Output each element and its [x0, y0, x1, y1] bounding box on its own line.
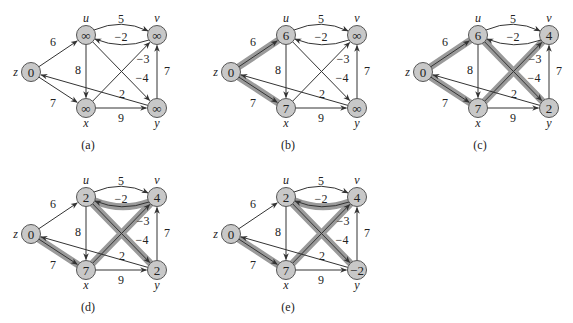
node-value-x: ∞: [81, 101, 90, 116]
panel-caption: (d): [81, 300, 95, 314]
edge-weight-ux: 8: [75, 225, 81, 239]
node-label-z: z: [12, 227, 18, 241]
edge-weight-yz: 2: [319, 87, 325, 101]
edge-weight-uv: 5: [118, 12, 124, 26]
edge-weight-ux: 8: [75, 63, 81, 77]
node-label-y: y: [545, 116, 552, 130]
edge-weight-xv: −3: [337, 52, 350, 66]
node-value-v: ∞: [152, 28, 161, 43]
edge-weight-yz: 2: [119, 249, 125, 263]
node-label-z: z: [212, 227, 218, 241]
node-label-v: v: [154, 11, 160, 25]
edge-z-u: [239, 203, 277, 229]
edge-weight-xy: 9: [318, 111, 324, 125]
edge-weight-yv: 7: [364, 64, 370, 78]
edge-weight-uv: 5: [118, 174, 124, 188]
edge-weight-zu: 6: [50, 35, 56, 49]
edge-weight-yv: 7: [164, 64, 170, 78]
edge-weight-vu: −2: [507, 30, 520, 44]
edge-weight-uy: −4: [528, 71, 541, 85]
node-value-v: 4: [546, 28, 553, 43]
edge-z-u: [39, 41, 77, 67]
bellman-ford-figure: 675−28−4−39720z∞u∞v∞x∞y(a)675−28−4−39720…: [0, 0, 573, 323]
edge-weight-zu: 6: [250, 35, 256, 49]
edge-weight-ux: 8: [275, 225, 281, 239]
edge-weight-xy: 9: [118, 273, 124, 287]
node-value-u: 6: [283, 28, 290, 43]
panel-caption: (c): [473, 138, 486, 152]
node-value-x: 7: [283, 101, 290, 116]
graph-panel-e: 675−28−4−39720z2u4v7x−2y(e): [212, 173, 370, 314]
edge-weight-yv: 7: [364, 226, 370, 240]
edge-z-u: [39, 203, 77, 229]
edge-weight-vu: −2: [115, 30, 128, 44]
node-value-y: 2: [154, 263, 161, 278]
edge-weight-zx: 7: [250, 258, 256, 272]
edge-weight-zu: 6: [250, 197, 256, 211]
edge-weight-xy: 9: [118, 111, 124, 125]
edge-weight-uy: −4: [336, 233, 349, 247]
edge-weight-uv: 5: [318, 174, 324, 188]
graph-panel-d: 675−28−4−39720z2u4v7x2y(d): [12, 173, 170, 314]
edge-weight-yz: 2: [319, 249, 325, 263]
node-value-z: 0: [228, 227, 235, 242]
node-label-v: v: [354, 173, 360, 187]
edge-weight-zx: 7: [250, 96, 256, 110]
edge-weight-zx: 7: [50, 96, 56, 110]
figure-canvas: 675−28−4−39720z∞u∞v∞x∞y(a)675−28−4−39720…: [0, 0, 573, 323]
node-label-u: u: [283, 11, 289, 25]
node-label-u: u: [83, 173, 89, 187]
edge-weight-vu: −2: [115, 192, 128, 206]
node-label-x: x: [82, 278, 89, 292]
edge-weight-ux: 8: [275, 63, 281, 77]
edge-weight-yv: 7: [164, 226, 170, 240]
edge-weight-vu: −2: [315, 30, 328, 44]
node-label-v: v: [154, 173, 160, 187]
node-value-z: 0: [420, 65, 427, 80]
node-label-y: y: [153, 278, 160, 292]
node-label-v: v: [546, 11, 552, 25]
node-label-x: x: [474, 116, 481, 130]
edge-weight-xv: −3: [529, 52, 542, 66]
edge-weight-xv: −3: [137, 214, 150, 228]
edge-weight-xy: 9: [510, 111, 516, 125]
edge-z-x: [39, 239, 77, 264]
node-label-x: x: [282, 116, 289, 130]
node-value-y: 2: [546, 101, 553, 116]
edge-weight-zx: 7: [50, 258, 56, 272]
node-value-v: 4: [154, 190, 161, 205]
panel-caption: (a): [81, 138, 94, 152]
graph-panel-b: 675−28−4−39720z6u∞v7x∞y(b): [212, 11, 370, 152]
node-label-x: x: [82, 116, 89, 130]
node-label-u: u: [283, 173, 289, 187]
edge-weight-uy: −4: [136, 233, 149, 247]
edge-z-u: [431, 41, 469, 67]
node-label-z: z: [404, 65, 410, 79]
node-label-z: z: [12, 65, 18, 79]
node-value-z: 0: [228, 65, 235, 80]
node-label-y: y: [353, 116, 360, 130]
node-value-z: 0: [28, 227, 35, 242]
node-value-x: 7: [83, 263, 90, 278]
edge-weight-ux: 8: [467, 63, 473, 77]
panel-caption: (e): [281, 300, 294, 314]
edge-weight-uy: −4: [336, 71, 349, 85]
node-value-y: ∞: [352, 101, 361, 116]
edge-z-x: [239, 239, 277, 264]
edge-weight-uv: 5: [318, 12, 324, 26]
node-label-y: y: [353, 278, 360, 292]
edge-z-x: [431, 77, 469, 102]
edge-weight-zu: 6: [442, 35, 448, 49]
panel-caption: (b): [281, 138, 295, 152]
node-value-u: 2: [83, 190, 90, 205]
edge-weight-vu: −2: [315, 192, 328, 206]
edge-z-u: [239, 41, 277, 67]
node-value-z: 0: [28, 65, 35, 80]
edge-weight-zx: 7: [442, 96, 448, 110]
node-label-y: y: [153, 116, 160, 130]
node-value-u: 2: [283, 190, 290, 205]
edge-weight-xv: −3: [137, 52, 150, 66]
edge-weight-uv: 5: [510, 12, 516, 26]
edge-weight-xy: 9: [318, 273, 324, 287]
edge-z-x: [39, 77, 77, 102]
